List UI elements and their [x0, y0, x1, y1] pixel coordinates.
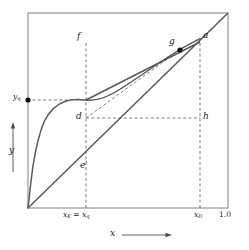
y-axis-title: y [9, 146, 14, 155]
y-tick-yq-sub: q [17, 95, 20, 101]
point-label-g: g [169, 37, 175, 46]
equilibrium-diagram-figure: a g d h f e′ yq xE = xq xD 1.0 y x [0, 0, 249, 250]
point-label-e-prime: e′ [80, 161, 87, 170]
x-tick-xq-sub: q [86, 213, 89, 219]
x-tick-xD-sub: D [198, 213, 202, 219]
x-tick-xE-sub: E [67, 213, 71, 219]
operating-line [86, 42, 200, 100]
y-tick-label-yq: yq [13, 93, 21, 101]
x-tick-label-xE-xq: xE = xq [63, 211, 90, 219]
x-tick-label-xD: xD [194, 211, 202, 219]
point-marker-g [177, 47, 182, 52]
x-tick-label-one: 1.0 [219, 211, 231, 219]
x-axis-arrow-head [166, 233, 173, 237]
x-tick-equals: = [71, 210, 82, 219]
x-axis-title: x [110, 229, 115, 238]
point-label-h: h [203, 112, 209, 121]
y-axis-arrow-head [11, 122, 15, 129]
plot-canvas [0, 0, 249, 250]
point-label-a: a [203, 31, 208, 40]
point-label-f: f [77, 32, 80, 41]
point-label-d: d [76, 112, 82, 121]
point-marker-yq [25, 97, 30, 102]
